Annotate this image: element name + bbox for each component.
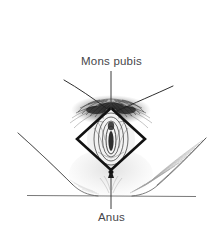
label-mons-pubis: Mons pubis xyxy=(0,55,223,67)
anatomy-figure: Mons pubis Anus xyxy=(0,0,223,232)
anatomy-illustration xyxy=(0,0,223,232)
label-anus: Anus xyxy=(0,211,223,223)
